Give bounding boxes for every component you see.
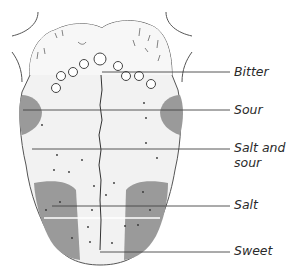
label-sour: Sour <box>234 102 263 117</box>
label-salt-and-sour-line2: sour <box>234 155 261 170</box>
label-bitter: Bitter <box>234 64 269 79</box>
salt-zone-right <box>124 181 168 260</box>
label-sweet: Sweet <box>234 243 272 258</box>
right-cheek-curve <box>182 52 192 82</box>
salt-zone-left <box>34 181 80 260</box>
tongue-back-area <box>30 21 172 75</box>
tongue-taste-diagram <box>0 0 303 273</box>
left-cheek-curve <box>12 52 22 82</box>
right-throat-curve <box>166 12 192 36</box>
label-salt-and-sour-line1: Salt and <box>234 140 285 155</box>
label-salt: Salt <box>234 197 258 212</box>
left-throat-curve <box>12 12 38 36</box>
